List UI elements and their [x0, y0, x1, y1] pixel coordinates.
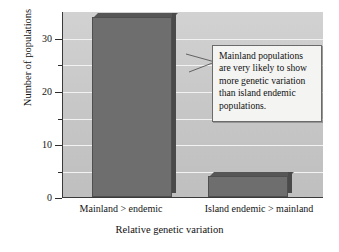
- y-tick-30: [55, 39, 62, 40]
- y-axis-title: Number of populations: [22, 0, 33, 138]
- bar-island-endemic-greater-than-mainland[interactable]: [208, 176, 288, 197]
- y-tick-25: [58, 65, 62, 66]
- x-axis-label-island-endemic-greater-than-mainland: Island endemic > mainland: [184, 203, 334, 214]
- x-axis-title: Relative genetic variation: [0, 224, 339, 235]
- bar-side-face: [172, 13, 176, 193]
- bar-mainland-greater-than-endemic[interactable]: [92, 17, 172, 197]
- bar-front-face: [208, 176, 288, 197]
- bar-chart-figure: 30 20 10 0 Number of populations Mainlan…: [0, 0, 339, 252]
- y-tick-15: [58, 119, 62, 120]
- y-tick-10: [55, 145, 62, 146]
- y-tick-0: [55, 198, 62, 199]
- y-axis-label-0: 0: [28, 193, 52, 203]
- x-axis-label-mainland-greater-than-endemic: Mainland > endemic: [61, 203, 181, 214]
- callout-annotation: Mainland populations are very likely to …: [212, 45, 322, 122]
- y-tick-20: [55, 92, 62, 93]
- bar-front-face: [92, 17, 172, 197]
- y-tick-5: [58, 172, 62, 173]
- bar-side-face: [288, 172, 292, 193]
- y-axis-label-10: 10: [28, 140, 52, 150]
